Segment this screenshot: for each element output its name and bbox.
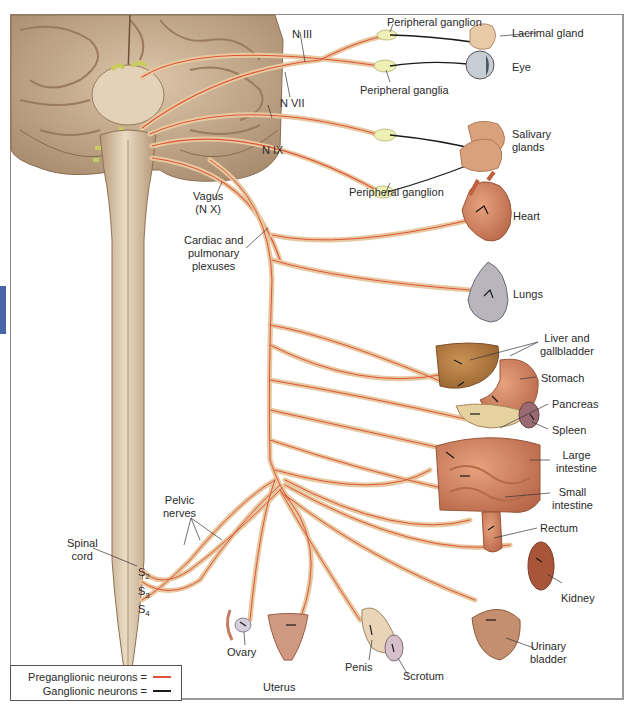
label-lungs: Lungs — [513, 288, 543, 301]
label-cardiac-plexus: Cardiac and pulmonary plexuses — [184, 234, 243, 273]
label-pelvic-nerves: Pelvic nerves — [163, 494, 196, 520]
scrotum-icon — [385, 635, 403, 661]
label-spleen: Spleen — [552, 424, 586, 437]
label-uterus: Uterus — [263, 681, 295, 694]
label-scrotum: Scrotum — [403, 670, 444, 683]
label-peripheral-ganglion-bottom: Peripheral ganglion — [349, 186, 444, 199]
label-liver-gallbladder: Liver and gallbladder — [540, 332, 594, 358]
rectum-icon — [482, 512, 502, 552]
label-vagus: Vagus (N X) — [193, 190, 223, 216]
liver-icon — [436, 343, 499, 388]
label-salivary-glands: Salivary glands — [512, 128, 551, 154]
uterus-icon — [268, 614, 308, 661]
label-n9: N IX — [262, 144, 283, 157]
label-penis: Penis — [345, 661, 373, 674]
urinary-bladder-icon — [472, 609, 520, 660]
legend-ganglionic: Ganglionic neurons = — [43, 685, 171, 697]
label-peripheral-ganglion-top: Peripheral ganglion — [387, 16, 482, 29]
legend: Preganglionic neurons = Ganglionic neuro… — [10, 665, 182, 701]
label-rectum: Rectum — [540, 522, 578, 535]
label-stomach: Stomach — [541, 372, 584, 385]
label-n7: N VII — [280, 97, 304, 110]
label-spinal-cord: Spinal cord — [67, 537, 98, 563]
preganglionic-swatch — [153, 676, 171, 678]
nervous-system-illustration — [0, 0, 631, 706]
ganglionic-swatch — [153, 690, 171, 692]
label-s3: S3 — [138, 585, 150, 598]
label-pancreas: Pancreas — [552, 398, 598, 411]
large-intestine-icon — [436, 438, 540, 513]
salivary-gland-icon — [460, 139, 502, 171]
label-urinary-bladder: Urinary bladder — [530, 640, 567, 666]
legend-preganglionic: Preganglionic neurons = — [28, 671, 171, 683]
label-small-intestine: Small intestine — [552, 486, 593, 512]
label-lacrimal-gland: Lacrimal gland — [512, 27, 584, 40]
label-kidney: Kidney — [561, 592, 595, 605]
label-s2: S2 — [138, 566, 150, 579]
ovary-icon — [235, 618, 251, 632]
kidney-icon — [528, 542, 554, 590]
label-peripheral-ganglia: Peripheral ganglia — [360, 84, 449, 97]
label-ovary: Ovary — [227, 646, 256, 659]
label-large-intestine: Large intestine — [556, 449, 597, 475]
label-s4: S4 — [138, 603, 150, 616]
label-eye: Eye — [512, 61, 531, 74]
eye-icon — [466, 51, 494, 79]
label-n3: N III — [292, 28, 312, 41]
label-heart: Heart — [513, 210, 540, 223]
